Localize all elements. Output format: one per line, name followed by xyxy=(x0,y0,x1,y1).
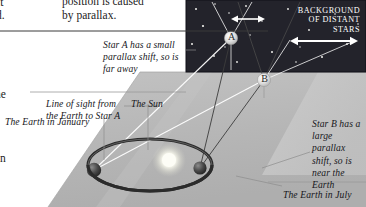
page-edge-fragment-3: ne xyxy=(0,88,6,101)
starfield-caption-line-2: of distant xyxy=(252,15,360,24)
annotation-earth-january: The Earth in January xyxy=(5,116,89,128)
starfield-caption-line-3: stars xyxy=(252,25,360,34)
page-body-line-1: position is caused xyxy=(62,0,144,8)
starfield-caption: Background of distant stars xyxy=(252,6,360,34)
sun xyxy=(162,153,176,167)
annotation-star-b: Star B has a large parallax shift, so is… xyxy=(312,118,364,191)
figure-stage: position is caused by parallax. it d. ne… xyxy=(0,0,366,207)
starfield-caption-line-1: Background xyxy=(252,6,360,15)
star-a-label: A xyxy=(225,31,238,42)
page-edge-fragment-4: an xyxy=(0,152,6,165)
annotation-sun: The Sun xyxy=(131,98,163,110)
earth-july xyxy=(193,161,206,174)
star-b-label: B xyxy=(258,73,271,84)
page-edge-fragment-1: it xyxy=(0,0,3,9)
annotation-star-a: Star A has a small parallax shift, so is… xyxy=(103,39,183,76)
page-body-line-2: by parallax. xyxy=(62,9,116,22)
page-edge-fragment-2: d. xyxy=(0,9,5,22)
annotation-earth-july: The Earth in July xyxy=(283,189,352,201)
